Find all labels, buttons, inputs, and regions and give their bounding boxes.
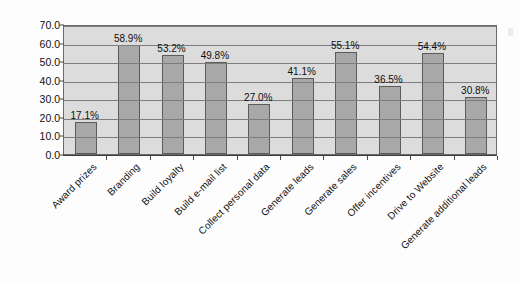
gridline bbox=[64, 100, 496, 101]
y-tick-label: 70.0 bbox=[26, 19, 60, 31]
bar[interactable] bbox=[205, 62, 227, 154]
y-tick-label: 0.0 bbox=[26, 149, 60, 161]
bar[interactable] bbox=[162, 55, 184, 154]
bar-value-label: 30.8% bbox=[461, 85, 489, 96]
bar[interactable] bbox=[379, 86, 401, 154]
bar[interactable] bbox=[465, 97, 487, 154]
bar-value-label: 53.2% bbox=[157, 43, 185, 54]
y-tick-mark bbox=[60, 80, 64, 81]
y-tick-mark bbox=[60, 43, 64, 44]
y-tick-label: 10.0 bbox=[26, 130, 60, 142]
x-tick-mark bbox=[410, 156, 411, 160]
x-tick-mark bbox=[106, 156, 107, 160]
bar-value-label: 36.5% bbox=[374, 74, 402, 85]
x-tick-mark bbox=[323, 156, 324, 160]
x-tick-mark bbox=[150, 156, 151, 160]
x-tick-mark bbox=[454, 156, 455, 160]
x-tick-mark bbox=[367, 156, 368, 160]
x-tick-mark bbox=[193, 156, 194, 160]
bar-chart: Percent of Total 0.010.020.030.040.050.0… bbox=[0, 0, 519, 283]
bar-value-label: 17.1% bbox=[71, 110, 99, 121]
gridline bbox=[64, 137, 496, 138]
y-tick-label: 50.0 bbox=[26, 56, 60, 68]
gridline bbox=[64, 119, 496, 120]
x-tick-label: Build loyalty bbox=[139, 161, 185, 207]
bar-value-label: 54.4% bbox=[418, 41, 446, 52]
gridline bbox=[64, 26, 496, 27]
x-tick-label: Branding bbox=[105, 161, 142, 198]
bar[interactable] bbox=[248, 104, 270, 154]
x-tick-label: Generate additional leads bbox=[399, 161, 489, 251]
y-tick-mark bbox=[60, 62, 64, 63]
x-tick-mark bbox=[497, 156, 498, 160]
bar-value-label: 55.1% bbox=[331, 40, 359, 51]
x-tick-mark bbox=[237, 156, 238, 160]
y-tick-label: 20.0 bbox=[26, 112, 60, 124]
bar-value-label: 41.1% bbox=[288, 66, 316, 77]
y-tick-label: 60.0 bbox=[26, 38, 60, 50]
gridline bbox=[64, 63, 496, 64]
y-tick-mark bbox=[60, 99, 64, 100]
x-tick-mark bbox=[280, 156, 281, 160]
bar-value-label: 58.9% bbox=[114, 33, 142, 44]
y-tick-mark bbox=[60, 155, 64, 156]
gridline bbox=[64, 82, 496, 83]
bar-value-label: 49.8% bbox=[201, 50, 229, 61]
bar-value-label: 27.0% bbox=[244, 92, 272, 103]
y-tick-label: 40.0 bbox=[26, 75, 60, 87]
y-tick-mark bbox=[60, 117, 64, 118]
y-axis-tick-labels: 0.010.020.030.040.050.060.070.0 bbox=[26, 0, 60, 283]
y-tick-mark bbox=[60, 25, 64, 26]
bar[interactable] bbox=[335, 52, 357, 154]
bar[interactable] bbox=[422, 53, 444, 154]
scan-artifact bbox=[508, 28, 513, 36]
y-tick-label: 30.0 bbox=[26, 93, 60, 105]
bar[interactable] bbox=[292, 78, 314, 154]
y-tick-mark bbox=[60, 136, 64, 137]
